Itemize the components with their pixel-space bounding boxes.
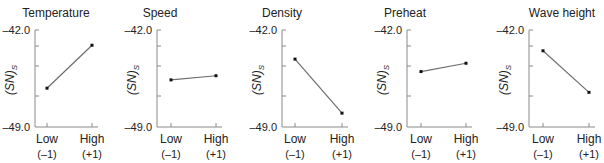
y-axis-label-main: (SN)	[250, 70, 264, 95]
effect-line	[421, 63, 466, 71]
y-axis-label-sub: S	[504, 64, 513, 70]
y-axis-label-sub: S	[257, 64, 266, 70]
y-max-label: –42.0	[374, 24, 402, 36]
data-point-high	[341, 112, 344, 115]
y-axis-label-main: (SN)	[497, 70, 511, 95]
panel-wave-height: Wave height–42.0–49.0(SN)SLowHigh(–1)(+1…	[496, 6, 601, 160]
x-label-high: High	[80, 132, 105, 146]
x-code-low: (–1)	[37, 148, 57, 160]
y-axis-label-sub: S	[132, 64, 141, 70]
y-axis-label: (SN)S	[497, 64, 513, 95]
x-code-high: (+1)	[82, 148, 102, 160]
x-code-low: (–1)	[285, 148, 305, 160]
x-code-high: (+1)	[332, 148, 352, 160]
x-label-low: Low	[410, 132, 432, 146]
panel-title: Density	[262, 6, 302, 20]
y-axis-label-main: (SN)	[375, 70, 389, 95]
data-point-low	[420, 70, 423, 73]
panel-title: Speed	[143, 6, 178, 20]
data-point-low	[46, 87, 49, 90]
x-label-high: High	[577, 132, 602, 146]
effect-line	[47, 45, 92, 88]
x-code-low: (–1)	[161, 148, 181, 160]
effect-line	[171, 76, 216, 80]
data-point-low	[170, 78, 173, 81]
data-point-high	[215, 74, 218, 77]
data-point-high	[588, 91, 591, 94]
main-effects-figure: Temperature–42.0–49.0(SN)SLowHigh(–1)(+1…	[0, 0, 604, 163]
y-min-label: –49.0	[2, 121, 30, 133]
y-min-label: –49.0	[374, 121, 402, 133]
x-code-high: (+1)	[456, 148, 476, 160]
y-axis-label-sub: S	[382, 64, 391, 70]
x-label-high: High	[330, 132, 355, 146]
data-point-low	[294, 58, 297, 61]
y-max-label: –42.0	[124, 24, 152, 36]
panel-title: Wave height	[529, 6, 596, 20]
x-code-high: (+1)	[206, 148, 226, 160]
data-point-high	[465, 62, 468, 65]
x-code-low: (–1)	[533, 148, 553, 160]
x-label-high: High	[454, 132, 479, 146]
y-axis-label-main: (SN)	[125, 70, 139, 95]
x-label-low: Low	[284, 132, 306, 146]
panel-title: Temperature	[22, 6, 90, 20]
y-min-label: –49.0	[124, 121, 152, 133]
panel-preheat: Preheat–42.0–49.0(SN)SLowHigh(–1)(+1)	[374, 6, 478, 160]
x-label-low: Low	[532, 132, 554, 146]
data-point-high	[91, 44, 94, 47]
y-axis-label-main: (SN)	[3, 70, 17, 95]
x-label-low: Low	[160, 132, 182, 146]
y-axis-label: (SN)S	[250, 64, 266, 95]
x-code-high: (+1)	[579, 148, 599, 160]
y-max-label: –42.0	[2, 24, 30, 36]
y-axis-label: (SN)S	[125, 64, 141, 95]
panel-temperature: Temperature–42.0–49.0(SN)SLowHigh(–1)(+1…	[2, 6, 104, 160]
effect-line	[295, 59, 342, 113]
y-axis-label: (SN)S	[3, 64, 19, 95]
panel-title: Preheat	[384, 6, 427, 20]
y-min-label: –49.0	[249, 121, 277, 133]
panel-density: Density–42.0–49.0(SN)SLowHigh(–1)(+1)	[249, 6, 354, 160]
y-max-label: –42.0	[249, 24, 277, 36]
x-code-low: (–1)	[411, 148, 431, 160]
y-axis-label: (SN)S	[375, 64, 391, 95]
y-max-label: –42.0	[496, 24, 524, 36]
effect-line	[543, 51, 589, 93]
y-min-label: –49.0	[496, 121, 524, 133]
y-axis-label-sub: S	[10, 64, 19, 70]
x-label-high: High	[204, 132, 229, 146]
data-point-low	[542, 49, 545, 52]
x-label-low: Low	[36, 132, 58, 146]
panel-speed: Speed–42.0–49.0(SN)SLowHigh(–1)(+1)	[124, 6, 228, 160]
